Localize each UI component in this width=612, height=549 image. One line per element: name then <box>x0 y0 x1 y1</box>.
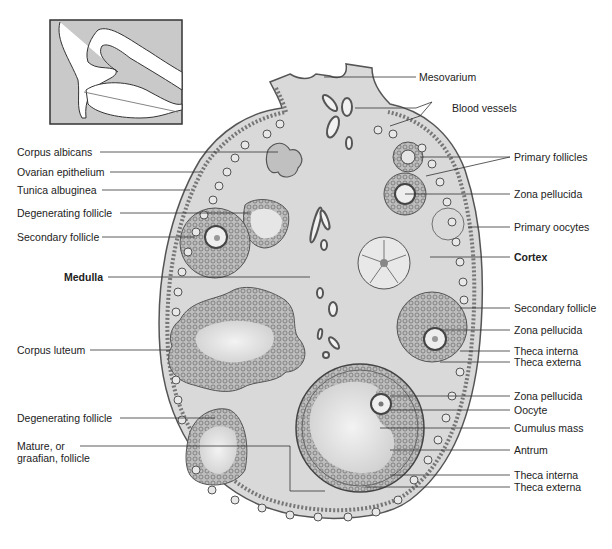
label-zona-pellucida-1: Zona pellucida <box>514 188 582 200</box>
label-secondary-follicle-right: Secondary follicle <box>514 302 596 314</box>
orientation-inset <box>50 20 182 124</box>
label-corpus-luteum: Corpus luteum <box>17 344 85 356</box>
label-medulla: Medulla <box>64 271 103 283</box>
label-secondary-follicle-left: Secondary follicle <box>17 231 99 243</box>
label-primary-oocytes: Primary oocytes <box>514 221 589 233</box>
label-graafian-follicle: Mature, or graafian, follicle <box>17 440 107 464</box>
label-tunica-albuginea: Tunica albuginea <box>17 184 97 196</box>
label-cortex: Cortex <box>514 251 547 263</box>
secondary-follicle-right <box>397 292 467 362</box>
label-degenerating-follicle-lower: Degenerating follicle <box>17 412 112 424</box>
label-theca-interna-2: Theca interna <box>514 469 578 481</box>
ovary-diagram: Corpus albicans Ovarian epithelium Tunic… <box>0 0 612 549</box>
label-antrum: Antrum <box>514 444 548 456</box>
label-blood-vessels: Blood vessels <box>452 102 517 114</box>
label-cumulus-mass: Cumulus mass <box>514 422 583 434</box>
label-mesovarium: Mesovarium <box>419 71 476 83</box>
label-zona-pellucida-2: Zona pellucida <box>514 324 582 336</box>
label-zona-pellucida-3: Zona pellucida <box>514 390 582 402</box>
label-theca-externa-2: Theca externa <box>514 481 581 493</box>
label-oocyte: Oocyte <box>514 404 547 416</box>
label-degenerating-follicle-upper: Degenerating follicle <box>17 207 112 219</box>
label-primary-follicles: Primary follicles <box>514 151 588 163</box>
label-ovarian-epithelium: Ovarian epithelium <box>17 166 105 178</box>
label-theca-externa-1: Theca externa <box>514 356 581 368</box>
label-corpus-albicans: Corpus albicans <box>17 146 92 158</box>
central-corpus <box>358 237 410 289</box>
